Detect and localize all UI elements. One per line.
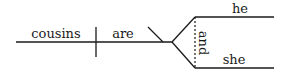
complement-word-1: he — [232, 1, 248, 16]
subject-word: cousins — [31, 26, 80, 41]
fork-lower-branch — [172, 42, 195, 68]
conjunction-word: and — [196, 31, 211, 55]
complement-word-2: she — [223, 52, 246, 67]
sentence-diagram: cousins are and he she — [0, 0, 288, 76]
fork-upper-branch — [172, 17, 195, 42]
verb-word: are — [112, 26, 134, 41]
complement-slant-line — [148, 27, 163, 42]
